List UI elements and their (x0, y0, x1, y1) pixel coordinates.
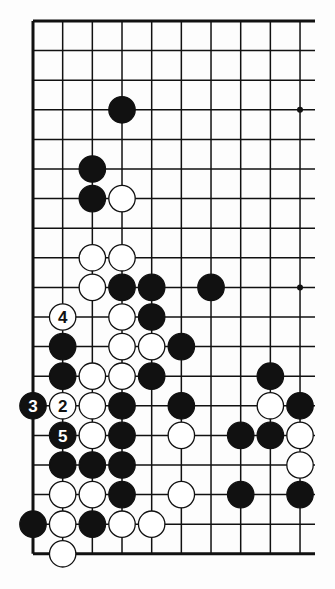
black-stone (79, 185, 105, 211)
black-stone (20, 511, 46, 537)
white-stone (287, 452, 313, 478)
black-stone (49, 363, 75, 389)
white-stone (109, 511, 135, 537)
stones-layer: 4325 (20, 97, 313, 567)
white-stone (109, 333, 135, 359)
white-stone (109, 185, 135, 211)
white-stone (109, 304, 135, 330)
move-number: 5 (58, 427, 67, 446)
white-stone (79, 245, 105, 271)
white-stone (138, 511, 164, 537)
move-number: 2 (58, 397, 67, 416)
white-stone (79, 393, 105, 419)
white-stone (79, 274, 105, 300)
white-stone (79, 363, 105, 389)
black-stone (257, 422, 283, 448)
white-stone (49, 481, 75, 507)
white-stone (138, 333, 164, 359)
star-point-icon (297, 107, 303, 113)
black-stone (109, 393, 135, 419)
black-stone-move-5: 5 (49, 422, 75, 448)
board-grid (33, 21, 315, 554)
black-stone (257, 363, 283, 389)
black-stone (138, 304, 164, 330)
black-stone (109, 274, 135, 300)
white-stone (168, 422, 194, 448)
black-stone (198, 274, 224, 300)
black-stone (49, 333, 75, 359)
white-stone (79, 481, 105, 507)
black-stone (227, 481, 253, 507)
white-stone (79, 422, 105, 448)
black-stone (49, 452, 75, 478)
black-stone (138, 363, 164, 389)
move-number: 3 (28, 397, 37, 416)
white-stone (287, 422, 313, 448)
black-stone (79, 511, 105, 537)
black-stone (138, 274, 164, 300)
black-stone (79, 452, 105, 478)
star-point-icon (297, 284, 303, 290)
black-stone (168, 333, 194, 359)
white-stone-move-4: 4 (49, 304, 75, 330)
black-stone (79, 156, 105, 182)
white-stone-move-2: 2 (49, 393, 75, 419)
white-stone (168, 481, 194, 507)
black-stone (168, 393, 194, 419)
black-stone (287, 481, 313, 507)
black-stone (109, 97, 135, 123)
black-stone (109, 452, 135, 478)
move-number: 4 (58, 308, 68, 327)
white-stone (49, 541, 75, 567)
white-stone (257, 393, 283, 419)
white-stone (109, 245, 135, 271)
black-stone (227, 422, 253, 448)
black-stone (287, 393, 313, 419)
black-stone (109, 422, 135, 448)
white-stone (109, 363, 135, 389)
go-board-diagram: 4325 (0, 0, 335, 589)
white-stone (49, 511, 75, 537)
black-stone-move-3: 3 (20, 393, 46, 419)
black-stone (109, 481, 135, 507)
